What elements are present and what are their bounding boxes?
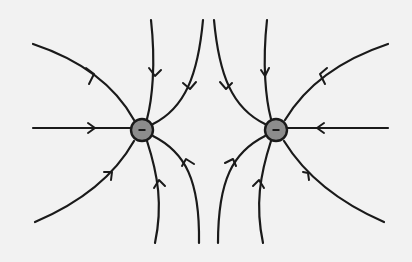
arrowhead-icon [154,180,165,188]
field-line-left [153,20,203,124]
field-diagram [0,0,412,262]
field-line-left [35,141,134,222]
field-lines [33,20,388,243]
field-line-left [153,136,199,243]
field-line-left [33,44,134,120]
field-line-right [218,136,265,243]
field-line-right [214,20,265,124]
minus-sign [273,129,280,131]
field-line-right [284,141,384,222]
arrowhead-icon [253,180,264,188]
arrowhead-icon [149,68,161,76]
charge-right [265,119,287,141]
field-line-right [259,141,271,243]
arrowhead-icon [303,172,309,180]
field-line-left [147,141,159,243]
minus-sign [139,129,146,131]
field-line-right [285,44,388,120]
charge-left [131,119,153,141]
